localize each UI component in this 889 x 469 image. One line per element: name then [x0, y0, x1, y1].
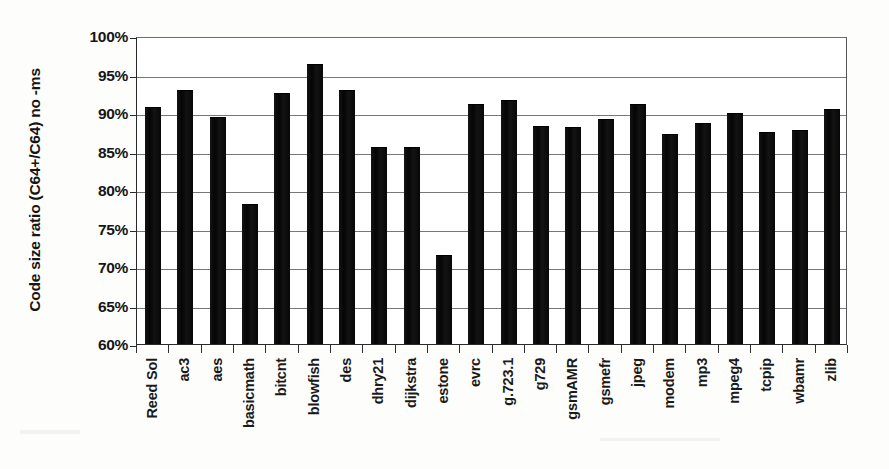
bar: [274, 93, 290, 344]
x-axis-label: blowfish: [306, 358, 322, 415]
bar-chart-figure: Code size ratio (C64+/C64) no -ms 100%95…: [0, 0, 889, 469]
x-axis-label: evrc: [467, 358, 483, 387]
x-label-slot: g.723.1: [492, 354, 524, 469]
x-label-slot: zlib: [815, 354, 847, 469]
bar: [598, 119, 614, 344]
y-tick-label: 70%: [54, 259, 128, 277]
x-axis-label: dijkstra: [403, 358, 419, 408]
x-label-slot: jpeg: [621, 354, 653, 469]
y-axis-title: Code size ratio (C64+/C64) no -ms: [22, 20, 48, 360]
x-tick-mark: [815, 345, 816, 353]
y-tick-label: 85%: [54, 144, 128, 162]
x-label-slot: estone: [427, 354, 459, 469]
bar: [371, 147, 387, 344]
bar: [145, 107, 161, 344]
bar: [695, 123, 711, 344]
x-label-slot: evrc: [459, 354, 491, 469]
bar: [662, 134, 678, 344]
bar: [727, 113, 743, 344]
x-label-slot: bitcnt: [265, 354, 297, 469]
x-axis-label: zlib: [823, 358, 839, 381]
y-tick-label: 100%: [54, 28, 128, 46]
y-tick-mark: [130, 38, 137, 39]
bar: [759, 132, 775, 344]
bar: [307, 64, 323, 345]
bars-series: [137, 38, 846, 344]
x-axis-label: des: [338, 358, 354, 382]
x-tick-mark: [201, 345, 202, 353]
bar: [533, 126, 549, 344]
x-tick-mark: [362, 345, 363, 353]
x-label-slot: Reed Sol: [136, 354, 168, 469]
bar: [404, 147, 420, 344]
bar: [339, 90, 355, 344]
x-tick-mark: [168, 345, 169, 353]
y-tick-label: 80%: [54, 182, 128, 200]
y-tick-mark: [130, 231, 137, 232]
x-tick-mark: [556, 345, 557, 353]
y-tick-mark: [130, 77, 137, 78]
y-axis-tick-labels: 100%95%90%85%80%75%70%65%60%: [54, 0, 128, 469]
x-tick-mark: [621, 345, 622, 353]
bar: [824, 109, 840, 344]
x-tick-mark: [395, 345, 396, 353]
x-label-slot: gsmefr: [588, 354, 620, 469]
bar: [210, 117, 226, 344]
x-tick-mark: [782, 345, 783, 353]
bar: [792, 130, 808, 344]
bar: [468, 104, 484, 344]
x-tick-mark: [330, 345, 331, 353]
x-label-slot: ac3: [168, 354, 200, 469]
x-axis-label: ac3: [176, 358, 192, 382]
y-tick-label: 60%: [54, 336, 128, 354]
x-label-slot: aes: [201, 354, 233, 469]
x-label-slot: blowfish: [298, 354, 330, 469]
bar: [630, 104, 646, 344]
x-label-slot: tcpip: [750, 354, 782, 469]
x-tick-mark: [588, 345, 589, 353]
x-label-slot: dijkstra: [395, 354, 427, 469]
x-axis-category-labels: Reed Solac3aesbasicmathbitcntblowfishdes…: [136, 354, 847, 469]
x-tick-mark: [427, 345, 428, 353]
x-label-slot: mpeg4: [718, 354, 750, 469]
y-tick-label: 65%: [54, 298, 128, 316]
x-axis-label: gsmefr: [597, 358, 613, 405]
x-axis-label: aes: [209, 358, 225, 382]
x-axis-label: g729: [532, 358, 548, 390]
x-tick-mark: [653, 345, 654, 353]
x-axis-label: Reed Sol: [144, 358, 160, 418]
x-axis-label: mpeg4: [726, 358, 742, 404]
x-axis-label: bitcnt: [273, 358, 289, 396]
y-tick-mark: [130, 308, 137, 309]
x-tick-mark: [233, 345, 234, 353]
x-tick-mark: [847, 345, 848, 353]
x-tick-mark: [459, 345, 460, 353]
bar: [565, 127, 581, 344]
x-axis-label: basicmath: [241, 358, 257, 428]
x-label-slot: g729: [524, 354, 556, 469]
bar: [242, 204, 258, 344]
x-axis-label: modem: [661, 358, 677, 409]
x-axis-label: estone: [435, 358, 451, 404]
x-label-slot: gsmAMR: [556, 354, 588, 469]
x-label-slot: basicmath: [233, 354, 265, 469]
x-axis-label: g.723.1: [500, 358, 516, 406]
bar: [501, 100, 517, 344]
x-tick-mark: [524, 345, 525, 353]
x-tick-mark: [298, 345, 299, 353]
x-label-slot: dhry21: [362, 354, 394, 469]
x-axis-label: dhry21: [370, 358, 386, 404]
x-tick-mark: [265, 345, 266, 353]
x-tick-mark: [492, 345, 493, 353]
y-tick-label: 75%: [54, 221, 128, 239]
y-tick-label: 95%: [54, 67, 128, 85]
x-axis-label: wbamr: [791, 358, 807, 404]
x-axis-label: jpeg: [629, 358, 645, 387]
x-axis-label: gsmAMR: [564, 358, 580, 420]
x-axis-label: tcpip: [758, 358, 774, 392]
x-label-slot: mp3: [685, 354, 717, 469]
y-tick-mark: [130, 154, 137, 155]
x-label-slot: wbamr: [782, 354, 814, 469]
bar: [436, 255, 452, 344]
x-axis-tick-marks: [136, 345, 847, 354]
